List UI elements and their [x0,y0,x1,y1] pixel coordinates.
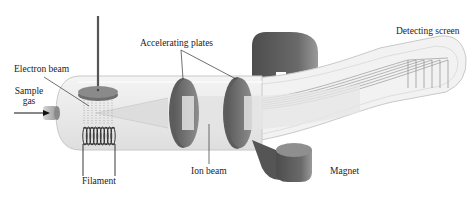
sample-gas-arrow [14,110,50,116]
label-filament: Filament [82,176,116,187]
label-sample-gas-line2: gas [14,96,44,107]
label-accelerating-plates: Accelerating plates [140,38,213,49]
label-electron-beam: Electron beam [14,64,69,75]
label-detecting-screen: Detecting screen [396,26,460,37]
plate2-leader [181,50,236,79]
magnet-lower [252,140,312,182]
plate1-leader [181,50,183,79]
label-magnet: Magnet [330,166,359,177]
accelerating-plate-1 [169,78,199,148]
label-ion-beam: Ion beam [191,166,227,177]
electron-collector-plate [78,16,118,101]
mass-spectrometer-diagram: Electron beam Sample gas Accelerating pl… [0,0,475,198]
